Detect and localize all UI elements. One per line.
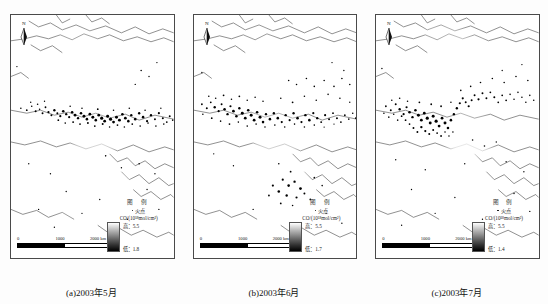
fire-point-icon-a bbox=[132, 210, 134, 212]
panel-caption-a: (a)2003年5月 bbox=[0, 283, 183, 304]
legend-unit-label-a: CO/(10¹⁸mol/cm²) bbox=[107, 215, 171, 221]
legend-colorbar-a: 高：5.5 低：1.8 bbox=[107, 222, 171, 252]
panel-caption-b: (b)2003年6月 bbox=[183, 283, 366, 304]
colorbar-low-label-a: 低：1.8 bbox=[123, 245, 171, 252]
scale-bar-segments-a bbox=[17, 243, 113, 248]
scale-tick-1000-a: 1000 bbox=[55, 235, 64, 243]
map-panel-a[interactable]: N 0 1000 2000 km 图 例 bbox=[0, 0, 183, 283]
north-label-b: N bbox=[205, 21, 209, 26]
panel-row: N 0 1000 2000 km 图 例 bbox=[0, 0, 548, 283]
scale-bar-c: 0 1000 2000 km bbox=[382, 235, 478, 248]
legend-title-b: 图 例 bbox=[289, 198, 353, 206]
legend-fire-label-b: 火点 bbox=[318, 207, 328, 214]
scale-bar-segments-c bbox=[382, 243, 478, 248]
colorbar-high-label-b: 高：5.5 bbox=[305, 222, 353, 229]
colorbar-gradient-b bbox=[289, 222, 302, 252]
legend-c: 图 例 火点 CO/(10¹⁸mol/cm²) 高：5.5 低：1.4 bbox=[472, 198, 536, 252]
scale-bar-ticks-c: 0 1000 2000 km bbox=[382, 235, 478, 243]
scale-tick-0-b: 0 bbox=[200, 235, 202, 243]
legend-fire-label-c: 火点 bbox=[501, 207, 511, 214]
scale-tick-1000-c: 1000 bbox=[421, 235, 430, 243]
legend-unit-label-c: CO/(10¹⁸mol/cm²) bbox=[472, 215, 536, 221]
panel-caption-c: (c)2003年7月 bbox=[365, 283, 548, 304]
scale-tick-2000-c: 2000 km bbox=[455, 235, 471, 243]
legend-title-c: 图 例 bbox=[472, 198, 536, 206]
north-arrow-icon-a: N bbox=[15, 19, 45, 49]
colorbar-low-label-c: 低：1.4 bbox=[488, 245, 536, 252]
scale-tick-1000-b: 1000 bbox=[238, 235, 247, 243]
north-label-c: N bbox=[387, 21, 391, 26]
map-frame-a: N 0 1000 2000 km 图 例 bbox=[10, 14, 175, 259]
caption-row: (a)2003年5月 (b)2003年6月 (c)2003年7月 bbox=[0, 283, 548, 304]
legend-colorbar-c: 高：5.5 低：1.4 bbox=[472, 222, 536, 252]
legend-colorbar-b: 高：5.5 低：1.7 bbox=[289, 222, 353, 252]
legend-fire-entry-c: 火点 bbox=[472, 207, 536, 214]
figure-co-fire-maps: N 0 1000 2000 km 图 例 bbox=[0, 0, 548, 304]
colorbar-low-label-b: 低：1.7 bbox=[305, 245, 353, 252]
scale-tick-2000-a: 2000 km bbox=[90, 235, 106, 243]
map-frame-b: N 0 1000 2000 km 图 例 bbox=[193, 14, 358, 259]
map-frame-c: N 0 1000 2000 km 图 例 bbox=[375, 14, 540, 259]
colorbar-gradient-c bbox=[472, 222, 485, 252]
legend-title-a: 图 例 bbox=[107, 198, 171, 206]
fire-point-icon-c bbox=[497, 210, 499, 212]
scale-tick-0-c: 0 bbox=[382, 235, 384, 243]
scale-bar-segments-b bbox=[200, 243, 296, 248]
map-panel-c[interactable]: N 0 1000 2000 km 图 例 bbox=[365, 0, 548, 283]
colorbar-high-label-c: 高：5.5 bbox=[488, 222, 536, 229]
legend-unit-label-b: CO/(10¹⁸mol/cm²) bbox=[289, 215, 353, 221]
north-label-a: N bbox=[22, 21, 26, 26]
fire-point-icon-b bbox=[315, 210, 317, 212]
legend-fire-entry-a: 火点 bbox=[107, 207, 171, 214]
legend-fire-label-a: 火点 bbox=[135, 207, 145, 214]
map-panel-b[interactable]: N 0 1000 2000 km 图 例 bbox=[183, 0, 366, 283]
colorbar-gradient-a bbox=[107, 222, 120, 252]
north-arrow-icon-c: N bbox=[380, 19, 410, 49]
scale-tick-2000-b: 2000 km bbox=[273, 235, 289, 243]
legend-a: 图 例 火点 CO/(10¹⁸mol/cm²) 高：5.5 低：1.8 bbox=[107, 198, 171, 252]
legend-fire-entry-b: 火点 bbox=[289, 207, 353, 214]
colorbar-high-label-a: 高：5.5 bbox=[123, 222, 171, 229]
scale-bar-ticks-a: 0 1000 2000 km bbox=[17, 235, 113, 243]
scale-tick-0-a: 0 bbox=[17, 235, 19, 243]
legend-b: 图 例 火点 CO/(10¹⁸mol/cm²) 高：5.5 低：1.7 bbox=[289, 198, 353, 252]
scale-bar-ticks-b: 0 1000 2000 km bbox=[200, 235, 296, 243]
scale-bar-b: 0 1000 2000 km bbox=[200, 235, 296, 248]
north-arrow-icon-b: N bbox=[198, 19, 228, 49]
scale-bar-a: 0 1000 2000 km bbox=[17, 235, 113, 248]
